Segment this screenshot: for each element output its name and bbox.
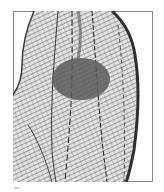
hatched-illustration-figure — [0, 0, 164, 192]
highlight-ellipse — [52, 58, 110, 100]
figure-canvas — [0, 0, 164, 192]
caption-mark — [14, 187, 19, 189]
